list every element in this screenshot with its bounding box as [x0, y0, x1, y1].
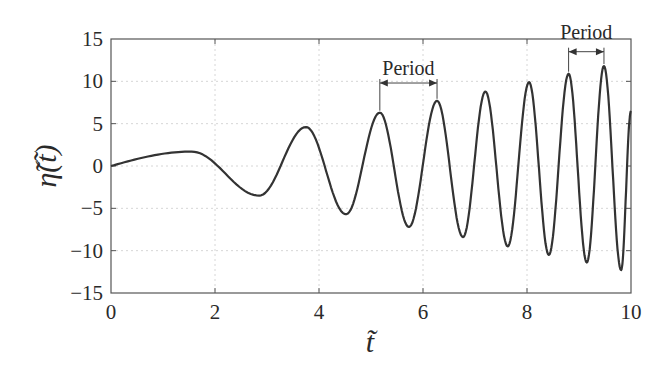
x-tick-label: 10 [621, 300, 642, 324]
y-axis-label: η̃(t̃) [29, 144, 63, 187]
grid-lines [111, 39, 631, 293]
x-tick-label: 8 [522, 300, 533, 324]
x-tick-label: 2 [210, 300, 221, 324]
y-tick-label: 5 [93, 112, 104, 136]
x-axis-label: t̃ [366, 325, 378, 358]
arrow-right-icon [429, 80, 437, 87]
y-tick-label: −5 [81, 196, 103, 220]
line-chart: PeriodPeriod t̃ η̃(t̃) 0246810151050−5−1… [0, 0, 670, 368]
y-tick-label: 10 [82, 69, 103, 93]
arrow-left-icon [380, 80, 388, 87]
period-label: Period [560, 21, 612, 43]
x-tick-label: 6 [418, 300, 429, 324]
y-tick-label: 15 [82, 27, 103, 51]
data-series-eta [111, 66, 631, 270]
y-tick-label: −10 [70, 239, 103, 263]
x-tick-label: 0 [106, 300, 117, 324]
y-tick-label: 0 [93, 154, 104, 178]
arrow-left-icon [569, 48, 577, 55]
period-label: Period [382, 57, 434, 79]
period-annotations: PeriodPeriod [380, 21, 613, 111]
arrow-right-icon [596, 48, 604, 55]
x-tick-label: 4 [314, 300, 325, 324]
y-tick-label: −15 [70, 281, 103, 305]
